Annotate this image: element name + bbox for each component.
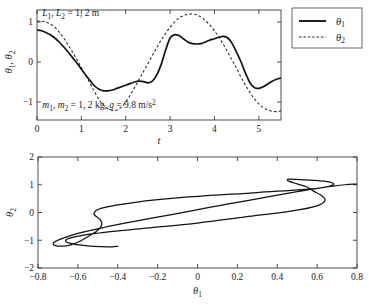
x-tick-label: 0.6 [311,272,323,282]
x-tick-label: 5 [256,124,261,134]
double-pendulum-figure: 012345−101tθ1, θ2L1, L2 = 1, 2 mm1, m2 =… [0,0,369,305]
x-tick-label: 0.8 [351,272,363,282]
legend: θ1θ2 [292,8,362,48]
phase-trajectory [53,179,357,247]
y-tick-label: 0 [29,208,34,218]
y-tick-label: 1 [28,17,33,27]
legend-box [292,8,362,48]
x-tick-label: −0.6 [69,272,86,282]
phase-portrait-frame [38,157,357,268]
x-tick-label: −0.4 [109,272,126,282]
x-tick-label: −0.2 [149,272,166,282]
curve-theta2 [37,14,281,112]
time-series-ylabel: θ1, θ2 [3,50,17,73]
x-tick-label: 0 [35,124,40,134]
x-tick-label: 0 [195,272,200,282]
x-tick-label: 0.4 [271,272,283,282]
phase-portrait-ylabel: θ2 [4,208,18,217]
curve-theta1 [37,30,281,91]
time-series-plot: 012345−101tθ1, θ2L1, L2 = 1, 2 mm1, m2 =… [3,8,281,146]
annotation-masses-gravity: m1, m2 = 1, 2 kg, g = 9.8 m/s2 [42,98,156,113]
figure-canvas: 012345−101tθ1, θ2L1, L2 = 1, 2 mm1, m2 =… [0,0,369,305]
y-tick-label: −1 [24,236,34,246]
phase-portrait-xlabel: θ1 [193,285,202,299]
y-tick-label: 2 [29,152,34,162]
y-tick-label: 1 [29,180,34,190]
x-tick-label: 0.2 [231,272,243,282]
time-series-xlabel: t [158,135,162,146]
x-tick-label: −0.8 [29,272,46,282]
y-tick-label: −1 [23,97,33,107]
x-tick-label: 4 [212,124,217,134]
y-tick-label: 0 [28,57,33,67]
x-tick-label: 2 [123,124,128,134]
x-tick-label: 1 [79,124,84,134]
y-tick-label: −2 [24,263,34,273]
phase-portrait-plot: −0.8−0.6−0.4−0.200.20.40.60.8−2−1012θ1θ2 [4,152,363,298]
x-tick-label: 3 [168,124,173,134]
